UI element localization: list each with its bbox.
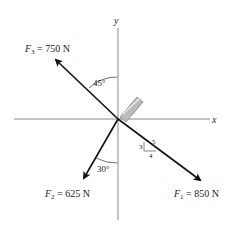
f2-label: F2 = 625 N (44, 188, 90, 201)
angle-label-30: 30° (97, 164, 110, 174)
svg-text:5: 5 (152, 138, 156, 146)
svg-text:4: 4 (149, 152, 153, 160)
bolt-icon (120, 97, 143, 122)
f1-arrow (118, 119, 200, 180)
angle-label-45: 45° (93, 78, 106, 88)
f1-label: F1 = 850 N (173, 188, 219, 201)
f3-label: F3 = 750 N (24, 43, 70, 56)
svg-text:3: 3 (139, 143, 143, 151)
angle-arc-30 (96, 158, 117, 163)
y-axis-label: y (113, 15, 119, 26)
force-diagram: x y 45° 30° 3 4 5 F3 = 750 N F2 = 625 N … (0, 0, 233, 231)
f3-arrow (56, 60, 118, 119)
x-axis-label: x (211, 114, 217, 125)
